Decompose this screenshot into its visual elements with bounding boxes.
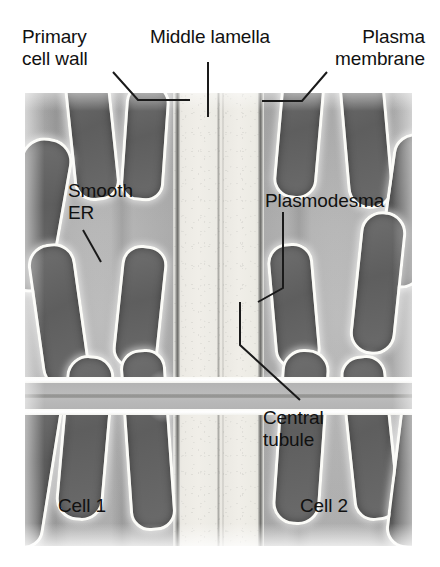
label-smooth-er: Smooth ER	[68, 180, 133, 224]
plasmodesma-membrane-bottom	[25, 409, 412, 415]
label-central-tubule: Central tubule	[263, 407, 324, 451]
label-plasma-membrane: Plasma membrane	[313, 26, 425, 70]
plasmodesma-channel	[25, 377, 412, 415]
micrograph-panel	[25, 93, 412, 546]
plasma-membrane-cell-1	[175, 93, 180, 546]
label-cell-2: Cell 2	[300, 495, 348, 517]
plasma-membrane-cell-2	[258, 93, 263, 546]
middle-lamella-line	[217, 93, 220, 546]
middle-lamella-line-2	[222, 93, 224, 546]
central-tubule-desmotubule	[25, 394, 412, 398]
label-primary-cell-wall: Primary cell wall	[22, 26, 88, 70]
label-plasmodesma: Plasmodesma	[265, 190, 384, 212]
label-middle-lamella: Middle lamella	[150, 26, 270, 48]
plasmodesma-membrane-top	[25, 377, 412, 383]
figure-root: Primary cell wall Middle lamella Plasma …	[0, 0, 440, 567]
label-cell-1: Cell 1	[58, 495, 106, 517]
